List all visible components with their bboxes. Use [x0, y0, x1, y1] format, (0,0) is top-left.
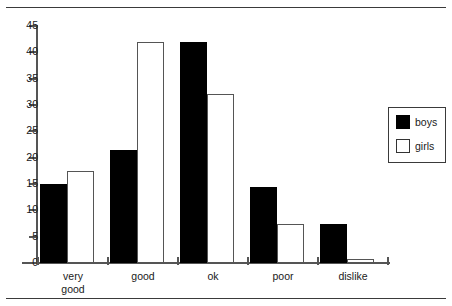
y-axis-label-wrap-40: 40 — [0, 52, 38, 53]
x-axis-tick-4 — [317, 257, 319, 265]
x-axis-category-label-very-good: very good — [38, 270, 108, 295]
legend-label-girls: girls — [415, 140, 434, 152]
y-axis-label-40: 40 — [14, 46, 38, 57]
y-axis-line — [36, 26, 38, 264]
y-axis-label-0: 0 — [14, 257, 38, 268]
y-axis-label-wrap-10: 10 — [0, 210, 38, 211]
y-axis-label-wrap-25: 25 — [0, 131, 38, 132]
y-axis-label-wrap-45: 45 — [0, 26, 38, 27]
bar-chart-plot-area: 051015202530354045 very goodgoodokpoordi… — [0, 0, 452, 306]
chart-legend: boys girls — [388, 107, 446, 163]
x-axis-tick-2 — [177, 257, 179, 265]
chart-page: 051015202530354045 very goodgoodokpoordi… — [0, 0, 452, 306]
x-axis-tick-0 — [37, 257, 39, 265]
y-axis-label-20: 20 — [14, 152, 38, 163]
x-axis-category-label-poor: poor — [248, 270, 318, 283]
y-axis-label-wrap-30: 30 — [0, 105, 38, 106]
y-axis-label-15: 15 — [14, 178, 38, 189]
x-axis-tick-1 — [107, 257, 109, 265]
x-axis-category-label-good: good — [108, 270, 178, 283]
x-axis-category-label-dislike: dislike — [318, 270, 388, 283]
x-axis-category-label-ok: ok — [178, 270, 248, 283]
x-axis-tick-5 — [387, 257, 389, 265]
y-axis-label-25: 25 — [14, 125, 38, 136]
y-axis-label-wrap-0: 0 — [0, 263, 38, 264]
legend-swatch-boys-icon — [396, 115, 410, 129]
y-axis-label-wrap-5: 5 — [0, 237, 38, 238]
y-axis-label-35: 35 — [14, 73, 38, 84]
bar-poor-girls — [277, 224, 304, 264]
bar-ok-boys — [180, 42, 207, 263]
bar-very-good-girls — [67, 171, 94, 263]
y-axis-label-wrap-15: 15 — [0, 184, 38, 185]
bar-poor-boys — [250, 187, 277, 263]
y-axis-label-5: 5 — [14, 231, 38, 242]
bar-very-good-boys — [40, 184, 67, 263]
y-axis-label-wrap-35: 35 — [0, 79, 38, 80]
x-axis-tick-3 — [247, 257, 249, 265]
bar-dislike-boys — [320, 224, 347, 264]
bar-good-boys — [110, 150, 137, 263]
legend-swatch-girls-icon — [396, 139, 410, 153]
y-axis-label-45: 45 — [14, 20, 38, 31]
bar-dislike-girls — [347, 259, 374, 263]
y-axis-label-30: 30 — [14, 99, 38, 110]
y-axis-label-wrap-20: 20 — [0, 158, 38, 159]
bar-ok-girls — [207, 94, 234, 263]
y-axis-label-10: 10 — [14, 204, 38, 215]
legend-label-boys: boys — [415, 116, 437, 128]
bar-good-girls — [137, 42, 164, 263]
